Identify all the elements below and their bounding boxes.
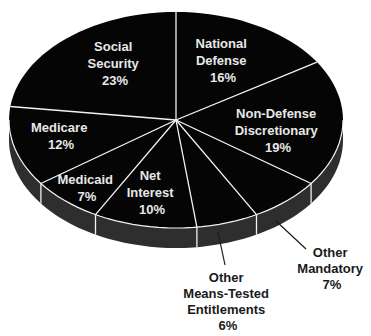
label-other-means-tested: Other Means-Tested Entitlements 6% (183, 270, 272, 333)
pie-chart: Social Security 23% National Defense 16%… (0, 0, 371, 336)
label-other-mandatory: Other Mandatory 7% (297, 245, 366, 292)
leader-line-other-mandatory (276, 221, 306, 249)
